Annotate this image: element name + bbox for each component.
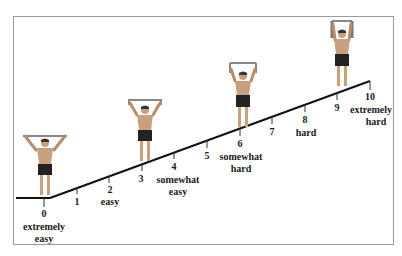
figure-level-3: [128, 100, 162, 161]
exertion-scale-diagram: [0, 0, 402, 256]
level-6-descriptor-line1: somewhat: [220, 151, 263, 162]
incline-line: [50, 81, 370, 198]
level-10-descriptor-line2: hard: [366, 116, 387, 127]
level-8-descriptor-line1: hard: [296, 127, 317, 138]
level-10-descriptor-line1: extremely: [350, 104, 392, 115]
level-4-value: 4: [172, 161, 177, 172]
level-9-value: 9: [335, 102, 340, 113]
figure-level-0: [23, 136, 67, 195]
level-2-value: 2: [108, 184, 113, 195]
level-6-value: 6: [238, 138, 243, 149]
figure-level-6: [230, 63, 256, 127]
level-6-descriptor-line2: hard: [231, 163, 252, 174]
level-1-value: 1: [75, 196, 80, 207]
level-4-descriptor-line1: somewhat: [157, 174, 200, 185]
level-0-descriptor-line2: easy: [35, 233, 53, 244]
level-7-value: 7: [270, 126, 275, 137]
level-5-value: 5: [205, 150, 210, 161]
level-3-value: 3: [139, 173, 144, 184]
level-2-descriptor-line1: easy: [101, 196, 119, 207]
level-0-value: 0: [42, 208, 47, 219]
level-10-value: 10: [365, 91, 375, 102]
level-4-descriptor-line2: easy: [169, 186, 187, 197]
figure-level-9: [332, 21, 352, 86]
level-0-descriptor-line1: extremely: [23, 221, 65, 232]
level-8-value: 8: [303, 114, 308, 125]
